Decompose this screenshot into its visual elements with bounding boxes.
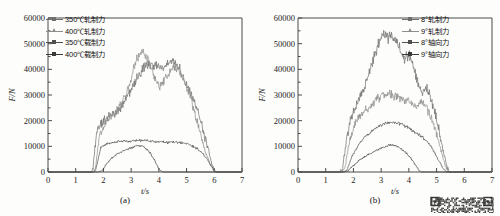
triangle-marker-icon xyxy=(46,27,63,36)
chart-panel-b: 010000200003000040000500006000001234567t… xyxy=(250,0,500,216)
svg-text:3: 3 xyxy=(129,175,133,185)
series-line xyxy=(48,59,242,172)
legend-item: 400℃轧制力 xyxy=(46,26,105,38)
svg-text:4: 4 xyxy=(407,175,412,185)
legend-label: 9°轧制力 xyxy=(421,28,449,35)
svg-text:60000: 60000 xyxy=(274,13,295,23)
chart-svg-a: 010000200003000040000500006000001234567t… xyxy=(0,0,250,195)
legend-label: 8°轴向力 xyxy=(421,39,449,46)
svg-text:10000: 10000 xyxy=(24,141,45,151)
svg-text:0: 0 xyxy=(296,175,300,185)
legend-label: 400℃轧制力 xyxy=(65,28,105,35)
svg-text:30000: 30000 xyxy=(24,90,45,100)
svg-text:7: 7 xyxy=(490,175,494,185)
svg-text:0: 0 xyxy=(291,167,295,177)
legend-label: 350℃载制力 xyxy=(65,39,105,46)
svg-text:30000: 30000 xyxy=(274,90,295,100)
legend-label: 400℃载制力 xyxy=(65,51,105,58)
legend-label: 8°轧制力 xyxy=(421,16,449,23)
legend-label: 350℃轧制力 xyxy=(65,16,105,23)
square-marker-icon xyxy=(402,15,419,24)
svg-text:t/s: t/s xyxy=(391,186,400,195)
svg-text:2: 2 xyxy=(101,175,105,185)
svg-text:0: 0 xyxy=(41,167,45,177)
svg-text:10000: 10000 xyxy=(274,141,295,151)
svg-text:3: 3 xyxy=(379,175,383,185)
triangle-marker-icon xyxy=(402,27,419,36)
series-line xyxy=(298,90,492,172)
series-line xyxy=(298,144,492,172)
svg-text:20000: 20000 xyxy=(274,116,295,126)
legend-a: 350℃轧制力400℃轧制力350℃载制力400℃载制力 xyxy=(46,14,105,60)
svg-text:5: 5 xyxy=(434,175,438,185)
svg-text:t/s: t/s xyxy=(141,186,150,195)
legend-item: 350℃轧制力 xyxy=(46,14,105,26)
legend-item: 8°轴向力 xyxy=(402,37,449,49)
svg-text:20000: 20000 xyxy=(24,116,45,126)
svg-text:50000: 50000 xyxy=(274,39,295,49)
svg-text:50000: 50000 xyxy=(24,39,45,49)
legend-label: 9°轴向力 xyxy=(421,51,449,58)
svg-text:60000: 60000 xyxy=(24,13,45,23)
legend-item: 350℃载制力 xyxy=(46,37,105,49)
svg-text:40000: 40000 xyxy=(274,64,295,74)
series-line xyxy=(298,122,492,172)
square-marker-icon xyxy=(46,50,63,59)
plot-area-b: 010000200003000040000500006000001234567t… xyxy=(250,0,500,195)
square-marker-icon xyxy=(46,15,63,24)
svg-text:6: 6 xyxy=(212,175,216,185)
svg-text:2: 2 xyxy=(351,175,355,185)
square-marker-icon xyxy=(46,38,63,47)
svg-text:5: 5 xyxy=(184,175,188,185)
svg-text:40000: 40000 xyxy=(24,64,45,74)
svg-text:4: 4 xyxy=(157,175,162,185)
svg-text:7: 7 xyxy=(240,175,244,185)
legend-item: 9°轴向力 xyxy=(402,49,449,61)
svg-text:1: 1 xyxy=(324,175,328,185)
square-marker-icon xyxy=(402,38,419,47)
svg-text:F/N: F/N xyxy=(257,87,267,103)
series-line xyxy=(298,30,492,172)
plot-area-a: 010000200003000040000500006000001234567t… xyxy=(0,0,250,195)
svg-text:6: 6 xyxy=(462,175,466,185)
square-marker-icon xyxy=(402,50,419,59)
chart-panel-a: 010000200003000040000500006000001234567t… xyxy=(0,0,250,216)
svg-text:0: 0 xyxy=(46,175,50,185)
chart-svg-b: 010000200003000040000500006000001234567t… xyxy=(250,0,500,195)
figure-container: 010000200003000040000500006000001234567t… xyxy=(0,0,500,216)
svg-text:F/N: F/N xyxy=(7,87,17,103)
caption-a: (a) xyxy=(0,195,250,205)
svg-text:1: 1 xyxy=(74,175,78,185)
legend-item: 400℃载制力 xyxy=(46,49,105,61)
legend-item: 9°轧制力 xyxy=(402,26,449,38)
legend-item: 8°轧制力 xyxy=(402,14,449,26)
qr-code-watermark xyxy=(430,196,494,213)
legend-b: 8°轧制力9°轧制力8°轴向力9°轴向力 xyxy=(402,14,449,60)
